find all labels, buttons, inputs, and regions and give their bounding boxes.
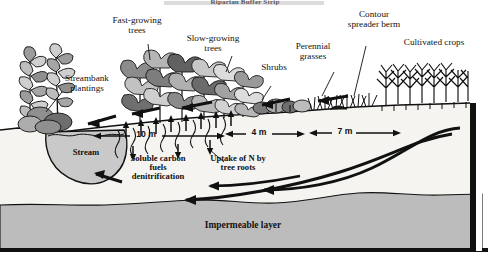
riparian-buffer-diagram: Riparian Buffer Strip Fast-growing trees… bbox=[0, 0, 488, 267]
bottom-border bbox=[0, 248, 488, 252]
right-border bbox=[470, 103, 476, 251]
label-stream: Stream bbox=[60, 148, 112, 157]
right-border-gap bbox=[476, 103, 482, 251]
measurement-7m: 7 m bbox=[316, 127, 374, 136]
measurement-10m: 10 m bbox=[116, 130, 176, 139]
label-uptake-of-n: Uptake of N by tree roots bbox=[190, 154, 286, 172]
measurement-4m: 4 m bbox=[230, 128, 288, 137]
callout-fast-growing-trees: Fast-growing trees bbox=[94, 16, 180, 35]
callout-contour-spreader-berm: Contour spreader berm bbox=[328, 10, 420, 29]
callout-slow-growing-trees: Slow-growing trees bbox=[172, 34, 254, 53]
callout-shrubs: Shrubs bbox=[250, 63, 298, 73]
callout-cultivated-crops: Cultivated crops bbox=[388, 38, 480, 48]
label-impermeable-layer: Impermeable layer bbox=[168, 221, 318, 231]
callout-streambank-plantings: Streambank plantings bbox=[52, 74, 122, 93]
callout-perennial-grasses: Perennial grasses bbox=[282, 42, 344, 61]
figure-title: Riparian Buffer Strip bbox=[152, 0, 338, 6]
